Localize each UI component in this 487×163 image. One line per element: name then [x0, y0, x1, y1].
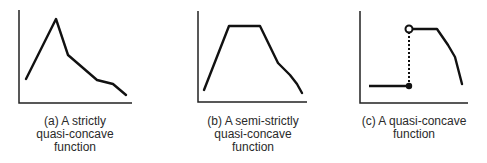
panel-c-caption: (c) A quasi-concave function [339, 115, 487, 141]
panel-a-caption-line-3: function [0, 141, 150, 154]
panel-a-graph [19, 10, 132, 103]
panel-a-curve [26, 19, 126, 95]
panel-b-axes [198, 11, 307, 102]
panel-c-filled-dot [406, 83, 412, 89]
panel-b-caption-line-3: function [178, 141, 328, 154]
quasi-concave-functions-figure: (a) A strictly quasi-concave function (b… [0, 0, 487, 163]
panel-b-curve [204, 26, 302, 93]
panel-b-caption: (b) A semi-strictly quasi-concave functi… [178, 115, 328, 154]
panel-c-axes [360, 11, 468, 103]
panel-c-graph [360, 11, 468, 103]
panel-c-open-circle [406, 26, 413, 33]
panel-b-graph [198, 11, 307, 102]
panel-c-caption-line-2: function [339, 128, 487, 141]
panel-c-curve [412, 29, 462, 84]
panel-a-caption: (a) A strictly quasi-concave function [0, 115, 150, 154]
